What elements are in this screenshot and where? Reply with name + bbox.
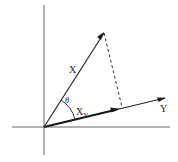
projection-diagram: X Y θ XY — [0, 0, 178, 162]
perpendicular-dashed-line — [104, 33, 122, 107]
projection-arrowhead — [110, 108, 120, 113]
vector-x — [44, 33, 104, 127]
vector-x-arrowhead — [97, 32, 104, 40]
label-x: X — [69, 64, 77, 75]
label-projection-sub: Y — [83, 111, 88, 119]
label-y: Y — [160, 103, 167, 114]
label-theta: θ — [65, 96, 69, 105]
vector-y-arrowhead — [157, 98, 166, 103]
